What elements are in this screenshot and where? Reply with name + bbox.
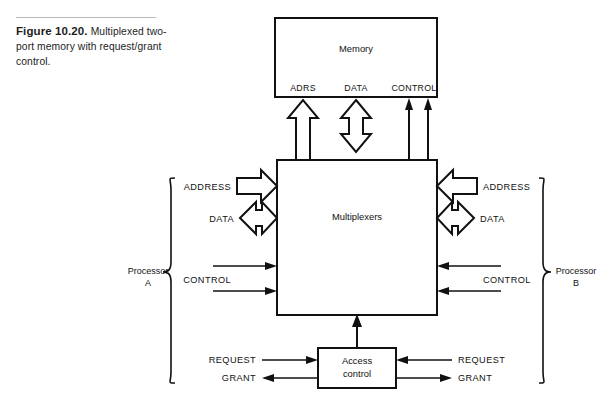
processor-a-name-line2: A	[145, 278, 151, 288]
memory-control-arrow-1	[405, 98, 413, 160]
processor-a-grant-label: GRANT	[222, 373, 256, 383]
processor-b-brace	[539, 178, 551, 383]
processor-b-control-arrow-2	[437, 287, 501, 295]
processor-a-data-label: DATA	[209, 214, 234, 224]
processor-b-address-label: ADDRESS	[483, 182, 530, 192]
access-control-to-multiplexers-arrow	[352, 314, 362, 348]
processor-a-data-arrow	[240, 202, 277, 234]
processor-a-request-arrow	[262, 356, 318, 364]
data-bus-arrow-bidirectional	[341, 100, 371, 152]
processor-b-address-arrow	[437, 170, 477, 202]
processor-a-request-label: REQUEST	[209, 355, 256, 365]
multiplexers-block-label: Multiplexers	[332, 211, 382, 222]
processor-b-request-label: REQUEST	[458, 355, 505, 365]
processor-b-name-line2: B	[573, 278, 579, 288]
processor-a-control-label: CONTROL	[183, 275, 231, 285]
adrs-bus-arrow-up	[288, 100, 318, 160]
figure-page: Figure 10.20. Multiplexed two-port memor…	[0, 0, 612, 416]
memory-port-data-label: DATA	[344, 83, 367, 93]
processor-a-control-arrow-2	[213, 287, 277, 295]
processor-a-address-arrow	[237, 170, 277, 202]
processor-a-grant-arrow	[262, 374, 318, 382]
access-control-label-line2: control	[343, 368, 371, 379]
processor-a-name-line1: Processor	[128, 266, 169, 276]
processor-b-name-line1: Processor	[556, 266, 597, 276]
processor-a-control-arrow-1	[213, 262, 277, 270]
processor-b-data-arrow	[437, 202, 474, 234]
processor-b-data-label: DATA	[480, 214, 505, 224]
processor-b-control-label: CONTROL	[483, 275, 531, 285]
processor-b-request-arrow	[396, 356, 452, 364]
processor-b-grant-label: GRANT	[458, 373, 492, 383]
processor-b-control-arrow-1	[437, 262, 501, 270]
access-control-label-line1: Access	[342, 355, 373, 366]
processor-a-address-label: ADDRESS	[184, 182, 231, 192]
processor-b-grant-arrow	[396, 374, 452, 382]
memory-control-arrow-2	[424, 98, 432, 160]
memory-block-label: Memory	[339, 43, 373, 54]
multiplexers-block	[277, 160, 437, 315]
memory-port-adrs-label: ADRS	[290, 83, 316, 93]
block-diagram: Memory ADRS DATA CONTROL Multiplexers Ac…	[0, 0, 612, 416]
processor-a-brace	[163, 178, 175, 383]
memory-port-control-label: CONTROL	[391, 83, 436, 93]
